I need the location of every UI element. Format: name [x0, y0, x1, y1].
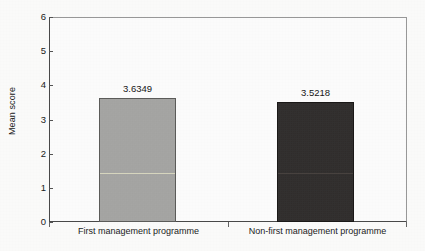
- y-tick-label-0: 0: [26, 217, 46, 227]
- y-tick-mark-4: [49, 85, 53, 86]
- y-tick-label-1: 1: [26, 183, 46, 193]
- x-axis-category-label-first-management-programme: First management programme: [49, 227, 228, 236]
- y-tick-label-5: 5: [26, 46, 46, 56]
- y-tick-mark-2: [49, 154, 53, 155]
- y-tick-mark-6: [49, 17, 53, 18]
- x-axis-category-label-non-first-management-programme: Non-first management programme: [228, 227, 407, 236]
- y-axis-title-label: Mean score: [7, 87, 17, 135]
- bar-first-management-programme[interactable]: [99, 98, 176, 222]
- y-tick-mark-3: [49, 120, 53, 121]
- y-tick-mark-5: [49, 51, 53, 52]
- scan-streak-light: [100, 173, 175, 175]
- bar-chart: Mean score 0 1 2 3 4 5 6 3.6349 3.5218 F…: [0, 0, 425, 251]
- bar-value-label-non-first-management-programme: 3.5218: [277, 88, 354, 98]
- y-tick-label-3: 3: [26, 115, 46, 125]
- y-tick-label-6: 6: [26, 12, 46, 22]
- y-axis-tick-labels: 0 1 2 3 4 5 6: [22, 0, 46, 251]
- bar-non-first-management-programme[interactable]: [277, 102, 354, 222]
- bar-value-label-first-management-programme: 3.6349: [99, 84, 176, 94]
- y-tick-label-4: 4: [26, 81, 46, 91]
- y-axis-title: Mean score: [3, 0, 21, 222]
- y-tick-label-2: 2: [26, 149, 46, 159]
- scan-streak-dark: [278, 173, 353, 175]
- y-tick-mark-1: [49, 188, 53, 189]
